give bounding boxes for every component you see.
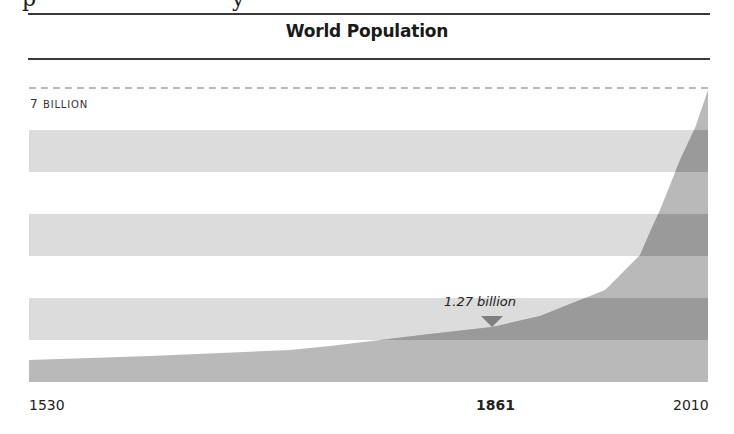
x-tick-end: 2010 [673,397,709,413]
x-tick-mid: 1861 [476,397,515,413]
y-max-number: 7 [30,97,38,111]
annotation-label: 1.27 billion [444,294,516,309]
population-area-chart [0,0,734,434]
x-tick-start: 1530 [29,397,65,413]
y-max-unit: billion [43,99,88,110]
y-max-label: 7 billion [30,97,88,111]
